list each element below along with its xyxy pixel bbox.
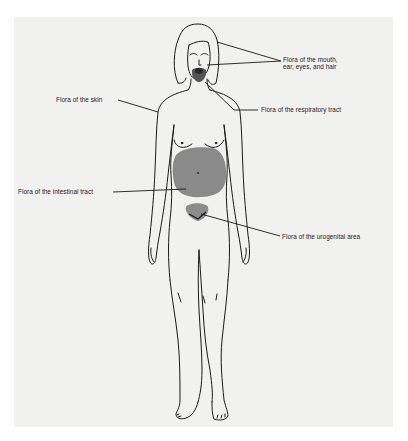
leader-mouth-upper [217,42,281,61]
leader-mouth-lower [207,61,281,65]
leader-respiratory [205,82,234,110]
label-mouth-ear-eyes-hair: Flora of the mouth, ear, eyes, and hair [283,56,338,71]
right-leg-outline [212,280,228,420]
left-leg-outline [170,280,198,419]
leader-intestinal [113,189,186,192]
leader-skin [118,100,158,112]
leader-urogenital [201,214,280,236]
label-skin: Flora of the skin [56,96,102,103]
label-respiratory-tract: Flora of the respiratory tract [261,106,341,113]
inner-leg-right [199,250,212,402]
human-body-figure [0,0,408,441]
label-urogenital-area: Flora of the urogenital area [282,233,360,240]
breast-right [205,140,224,147]
label-intestinal-tract: Flora of the intestinal tract [18,188,93,195]
flora-regions [173,68,226,221]
